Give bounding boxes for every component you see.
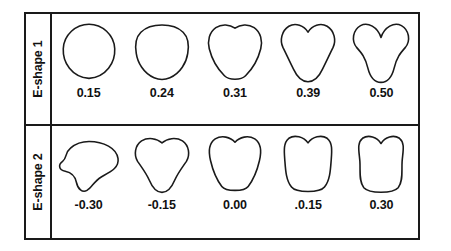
wide-flat-lobed-outline-icon (56, 131, 122, 197)
row-header-label: E-shape 2 (31, 153, 45, 210)
shape-value-label: 0.30 (369, 198, 393, 212)
row-header-eshape-2: E-shape 2 (26, 126, 52, 238)
eshape-row-2-cells: -0.30 -0.15 0.00 (52, 126, 418, 238)
shape-value-label: 0.24 (150, 86, 174, 100)
shape-cell: -0.15 (125, 126, 198, 238)
shape-value-label: .0.15 (295, 198, 322, 212)
shape-value-label: -0.15 (148, 198, 176, 212)
shape-cell: 0.00 (198, 126, 271, 238)
shape-cell: 0.31 (198, 14, 271, 124)
shape-value-label: 0.31 (223, 86, 247, 100)
lobed-outline-medium-icon (202, 19, 268, 85)
shape-cell: -0.30 (52, 126, 125, 238)
eshape-row-1-cells: 0.15 0.24 0.31 (52, 14, 418, 124)
shape-value-label: 0.15 (77, 86, 101, 100)
eshape-figure-panel: E-shape 1 0.15 0.24 (24, 12, 420, 240)
narrow-waisted-outline-icon (348, 131, 414, 197)
row-header-label: E-shape 1 (31, 40, 45, 97)
shape-value-label: -0.30 (75, 198, 103, 212)
shape-value-label: 0.39 (296, 86, 320, 100)
tooth-outline-neutral-icon (202, 131, 268, 197)
shape-cell: 0.24 (125, 14, 198, 124)
eshape-row-2: E-shape 2 -0.30 -0.15 (26, 126, 418, 238)
shape-cell: .0.15 (272, 126, 345, 238)
shape-cell: 0.30 (345, 126, 418, 238)
row-header-eshape-1: E-shape 1 (26, 14, 52, 124)
trefoil-outline-icon (348, 19, 414, 85)
rounded-oval-outline-icon (56, 19, 122, 85)
lobed-outline-mild-icon (129, 19, 195, 85)
shape-value-label: 0.00 (223, 198, 247, 212)
shape-cell: 0.15 (52, 14, 125, 124)
tall-tooth-outline-icon (275, 131, 341, 197)
shape-value-label: 0.50 (369, 86, 393, 100)
shape-cell: 0.50 (345, 14, 418, 124)
broad-trefoil-outline-icon (129, 131, 195, 197)
lobed-outline-strong-icon (275, 19, 341, 85)
eshape-row-1: E-shape 1 0.15 0.24 (26, 14, 418, 126)
shape-cell: 0.39 (272, 14, 345, 124)
